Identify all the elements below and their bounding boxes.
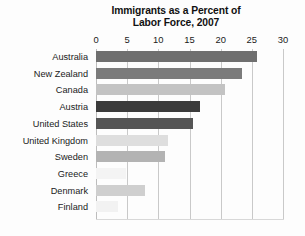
category-label-new-zealand: New Zealand (0, 69, 92, 79)
category-label-australia: Australia (0, 52, 92, 62)
x-tick-label-30: 30 (278, 34, 288, 45)
bar-canada (96, 84, 225, 95)
bar-greece (96, 168, 126, 179)
bar-united-kingdom (96, 135, 168, 146)
category-label-united-kingdom: United Kingdom (0, 136, 92, 146)
bar-austria (96, 101, 200, 112)
bar-united-states (96, 118, 193, 129)
x-tick-label-10: 10 (153, 34, 163, 45)
bar-australia (96, 51, 257, 62)
category-label-sweden: Sweden (0, 152, 92, 162)
chart-title: Immigrants as a Percent of Labor Force, … (62, 5, 290, 29)
gridline-30 (283, 49, 284, 219)
bar-new-zealand (96, 68, 242, 79)
bar-denmark (96, 185, 145, 196)
category-label-united-states: United States (0, 119, 92, 129)
bar-finland (96, 201, 118, 212)
bar-sweden (96, 151, 165, 162)
category-label-canada: Canada (0, 85, 92, 95)
bar-chart: Immigrants as a Percent of Labor Force, … (0, 0, 305, 236)
gridline-25 (252, 49, 253, 219)
category-label-finland: Finland (0, 202, 92, 212)
category-label-greece: Greece (0, 169, 92, 179)
axis-baseline (96, 219, 284, 220)
category-label-denmark: Denmark (0, 186, 92, 196)
x-tick-label-0: 0 (93, 34, 98, 45)
chart-title-line-1: Immigrants as a Percent of (62, 5, 290, 17)
x-tick-label-5: 5 (125, 34, 130, 45)
x-tick-label-20: 20 (215, 34, 225, 45)
chart-title-line-2: Labor Force, 2007 (62, 17, 290, 29)
x-tick-label-15: 15 (184, 34, 194, 45)
x-tick-label-25: 25 (247, 34, 257, 45)
category-label-austria: Austria (0, 102, 92, 112)
